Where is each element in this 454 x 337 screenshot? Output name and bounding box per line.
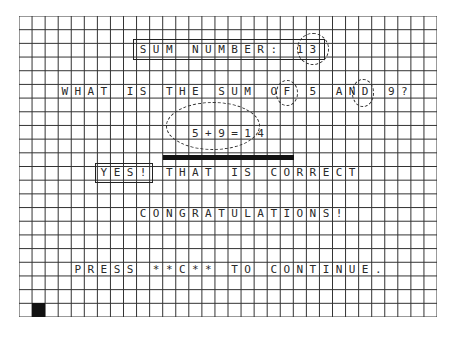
char-cell: = [228,127,241,141]
char-cell: G [176,207,189,221]
char-cell: 5 [306,85,319,99]
char-cell: A [189,166,202,180]
char-cell: O [267,85,280,99]
char-cell: E [359,263,372,277]
char-cell: N [163,207,176,221]
char-cell: C [176,263,189,277]
char-cell: S [137,85,150,99]
char-cell: I [319,263,332,277]
title-line: SUMNUMBER:13 [19,43,437,57]
char-cell: H [71,85,84,99]
char-cell: T [228,263,241,277]
char-cell: 1 [293,43,306,57]
char-cell: T [202,166,215,180]
char-cell: N [306,207,319,221]
char-cell: W [58,85,71,99]
answer-line: 5+9=14 [19,127,437,141]
char-cell: T [163,85,176,99]
char-cell: N [346,85,359,99]
char-cell: S [319,207,332,221]
char-cell: 4 [254,127,267,141]
char-cell: O [293,207,306,221]
char-cell: R [254,43,267,57]
char-cell: I [280,207,293,221]
char-cell: * [202,263,215,277]
char-cell: R [189,207,202,221]
char-cell: B [228,43,241,57]
char-cell: 5 [189,127,202,141]
char-cell: C [267,263,280,277]
char-cell: E [319,166,332,180]
char-cell: Y [97,166,110,180]
question-line: WHATISTHESUMOF5AND9? [19,85,437,99]
prompt-line[interactable]: PRESS**C**TOCONTINUE. [19,263,437,277]
char-cell: S [241,166,254,180]
char-cell: T [306,263,319,277]
char-cell: O [241,263,254,277]
char-cell: ! [137,166,150,180]
char-cell: R [293,166,306,180]
char-cell: L [241,207,254,221]
char-cell: 9 [215,127,228,141]
char-cell: U [346,263,359,277]
char-cell: E [241,43,254,57]
char-cell: U [150,43,163,57]
char-cell: 1 [241,127,254,141]
char-cell: A [254,207,267,221]
char-cell: : [267,43,280,57]
char-cell: I [228,166,241,180]
char-cell: * [150,263,163,277]
char-cell: 3 [306,43,319,57]
char-cell: U [228,85,241,99]
char-cell: E [97,263,110,277]
char-cell: M [163,43,176,57]
char-cell: I [124,85,137,99]
char-cell: U [228,207,241,221]
char-cell: N [333,263,346,277]
char-cell: C [333,166,346,180]
char-cell: T [267,207,280,221]
char-cell: S [124,166,137,180]
char-cell: ? [398,85,411,99]
divider-bar [163,155,294,160]
char-cell: N [293,263,306,277]
char-cell: E [189,85,202,99]
char-cell: F [280,85,293,99]
char-cell: H [176,85,189,99]
screen: SUMNUMBER:13 WHATISTHESUMOF5AND9? 5+9=14… [19,16,437,317]
char-cell: S [110,263,123,277]
char-cell: A [84,85,97,99]
char-cell: S [137,43,150,57]
char-cell: + [202,127,215,141]
char-cell: 9 [385,85,398,99]
char-cell: T [346,166,359,180]
char-cell: * [189,263,202,277]
answer-ellipse [166,102,260,150]
char-cell: R [306,166,319,180]
char-cell: ! [333,207,346,221]
char-cell: O [280,166,293,180]
char-cell: A [333,85,346,99]
char-cell: O [280,263,293,277]
char-cell: C [267,166,280,180]
char-cell: T [97,85,110,99]
char-cell: S [215,85,228,99]
char-cell: H [176,166,189,180]
char-cell: T [215,207,228,221]
feedback-line: YES!THATISCORRECT [19,166,437,180]
char-cell: U [202,43,215,57]
char-cell: R [84,263,97,277]
char-cell: . [372,263,385,277]
char-cell: M [215,43,228,57]
char-cell: S [124,263,137,277]
char-cell: M [241,85,254,99]
char-cell: A [202,207,215,221]
char-cell: T [163,166,176,180]
char-cell: D [359,85,372,99]
char-cell: * [163,263,176,277]
char-cell: N [189,43,202,57]
char-cell: P [71,263,84,277]
char-cell: E [110,166,123,180]
char-cell: C [137,207,150,221]
cursor-block [32,303,45,317]
